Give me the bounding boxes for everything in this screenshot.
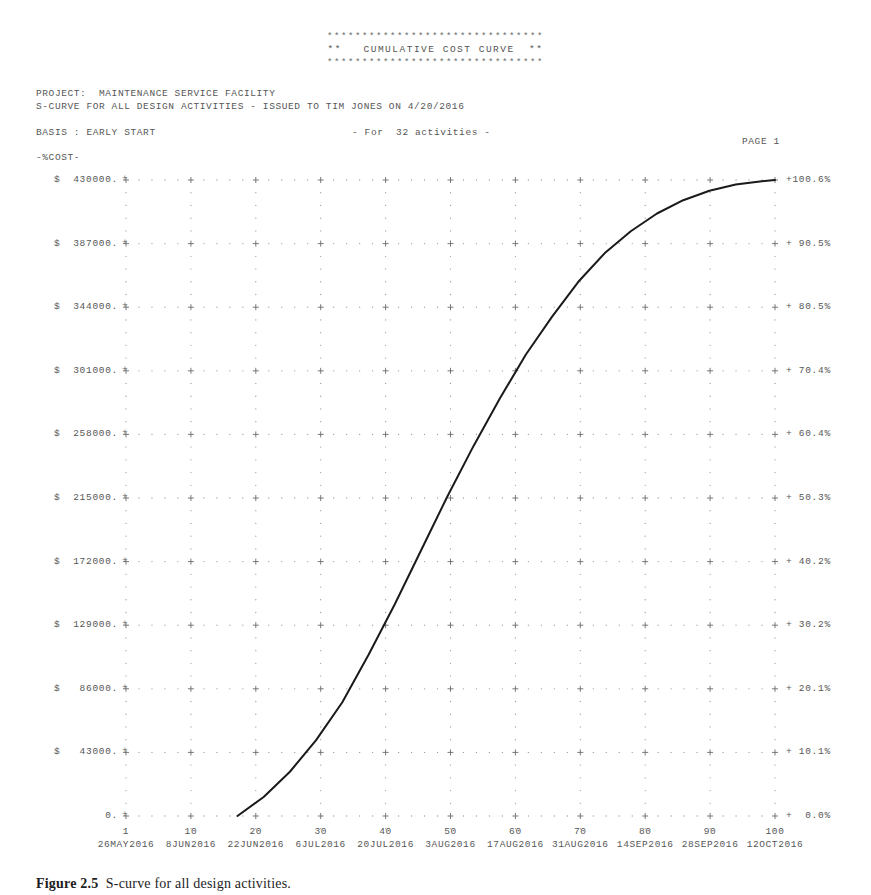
y-axis-tick-label: $ 129000. — [54, 619, 118, 630]
percent-axis-tick-label: + 10.1% — [786, 746, 831, 757]
x-axis-tick-date: 31AUG2016 — [552, 839, 609, 850]
figure-number: Figure 2.5 — [36, 876, 98, 891]
y-axis-tick-mark: + — [122, 618, 128, 629]
y-axis-tick-label: $ 43000. — [54, 746, 118, 757]
figure-caption: Figure 2.5 S-curve for all design activi… — [36, 876, 291, 892]
x-axis-tick-number: 100 — [766, 826, 785, 837]
y-axis-tick-label: $ 430000. — [54, 174, 118, 185]
y-axis-tick-mark: + — [122, 745, 128, 756]
x-axis-tick-date: 3AUG2016 — [425, 839, 475, 850]
x-axis-tick-number: 60 — [509, 826, 522, 837]
y-axis-title: -%COST- — [36, 152, 80, 164]
y-axis-tick-mark: + — [122, 237, 128, 248]
percent-axis-tick-label: + 90.5% — [786, 238, 831, 249]
x-axis-tick-number: 70 — [574, 826, 587, 837]
y-axis-tick-label: $ 258000. — [54, 428, 118, 439]
y-axis-tick-label: $ 86000. — [54, 683, 118, 694]
y-axis-tick-mark: + — [122, 555, 128, 566]
y-axis-tick-mark: + — [122, 364, 128, 375]
x-axis-tick-number: 1 — [123, 826, 129, 837]
x-axis-tick-date: 8JUN2016 — [166, 839, 216, 850]
y-axis-tick-label: $ 344000. — [54, 301, 118, 312]
y-axis-tick-mark: + — [122, 682, 128, 693]
report-title: ** CUMULATIVE COST CURVE ** — [0, 44, 871, 56]
percent-axis-labels: +100.6%+ 90.5%+ 80.5%+ 70.4%+ 60.4%+ 50.… — [786, 180, 866, 816]
x-axis-tick-number: 20 — [249, 826, 262, 837]
x-axis-tick-number: 30 — [314, 826, 327, 837]
x-axis-tick-number: 90 — [704, 826, 717, 837]
banner-top-stars: ******************************* — [0, 31, 871, 43]
y-axis-tick-mark: + — [122, 300, 128, 311]
x-axis-labels: 126MAY2016108JUN20162022JUN2016306JUL201… — [0, 826, 871, 866]
activities-count-line: - For 32 activities - — [352, 127, 491, 139]
percent-axis-tick-label: + 30.2% — [786, 619, 831, 630]
percent-axis-tick-label: + 70.4% — [786, 365, 831, 376]
percent-axis-tick-label: + 60.4% — [786, 428, 831, 439]
project-line: PROJECT: MAINTENANCE SERVICE FACILITY — [36, 88, 275, 100]
banner-bottom-stars: ******************************* — [0, 57, 871, 69]
y-axis-tick-mark: + — [122, 427, 128, 438]
y-axis-tick-label: $ 301000. — [54, 365, 118, 376]
y-axis-tick-label: $ 215000. — [54, 492, 118, 503]
x-axis-tick-date: 17AUG2016 — [487, 839, 544, 850]
y-axis-tick-label: 0. — [54, 810, 118, 821]
x-axis-tick-date: 14SEP2016 — [617, 839, 674, 850]
percent-axis-tick-label: + 0.0% — [786, 810, 831, 821]
x-axis-tick-date: 26MAY2016 — [98, 839, 155, 850]
x-axis-tick-number: 40 — [379, 826, 392, 837]
basis-line: BASIS : EARLY START — [36, 127, 156, 139]
y-axis-tick-label: $ 387000. — [54, 238, 118, 249]
y-axis-labels: $ 430000.+$ 387000.+$ 344000.+$ 301000.+… — [36, 180, 118, 816]
percent-axis-tick-label: + 80.5% — [786, 301, 831, 312]
x-axis-tick-number: 50 — [444, 826, 457, 837]
subtitle-line: S-CURVE FOR ALL DESIGN ACTIVITIES - ISSU… — [36, 101, 464, 113]
y-axis-tick-mark: + — [122, 491, 128, 502]
x-axis-tick-number: 10 — [185, 826, 198, 837]
x-axis-tick-number: 80 — [639, 826, 652, 837]
y-axis-tick-mark: + — [122, 809, 128, 820]
x-axis-tick-date: 12OCT2016 — [747, 839, 804, 850]
report-page: ******************************* ** CUMUL… — [0, 0, 871, 895]
y-axis-tick-label: $ 172000. — [54, 556, 118, 567]
figure-caption-text: S-curve for all design activities. — [98, 876, 291, 891]
page-label: PAGE 1 — [742, 136, 780, 148]
percent-axis-tick-label: + 50.3% — [786, 492, 831, 503]
x-axis-tick-date: 6JUL2016 — [295, 839, 345, 850]
chart-plot-area — [126, 180, 775, 816]
x-axis-tick-date: 20JUL2016 — [357, 839, 414, 850]
x-axis-tick-date: 28SEP2016 — [682, 839, 739, 850]
y-axis-tick-mark: + — [122, 173, 128, 184]
percent-axis-tick-label: +100.6% — [786, 174, 831, 185]
percent-axis-tick-label: + 20.1% — [786, 683, 831, 694]
s-curve-line — [126, 180, 775, 816]
x-axis-tick-date: 22JUN2016 — [227, 839, 284, 850]
percent-axis-tick-label: + 40.2% — [786, 556, 831, 567]
